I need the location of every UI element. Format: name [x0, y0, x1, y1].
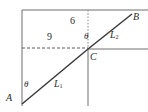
- point-label-c: C: [90, 52, 97, 62]
- angle-label-theta-at-c: θ: [84, 32, 88, 41]
- point-label-b: B: [133, 12, 139, 22]
- point-label-a: A: [6, 93, 12, 103]
- measure-label-rise: 6: [70, 16, 75, 26]
- line-l1-segment: [22, 49, 88, 104]
- line-label-l2-subscript: 2: [116, 33, 119, 40]
- line-label-l2: L2: [110, 30, 119, 40]
- line-label-l1-subscript: 1: [60, 82, 63, 89]
- measure-label-run: 9: [47, 32, 52, 42]
- line-label-l1: L1: [54, 79, 63, 89]
- geometry-figure: A B C L1 L2 θ θ 9 6: [0, 0, 148, 112]
- angle-label-theta-at-a: θ: [24, 80, 28, 89]
